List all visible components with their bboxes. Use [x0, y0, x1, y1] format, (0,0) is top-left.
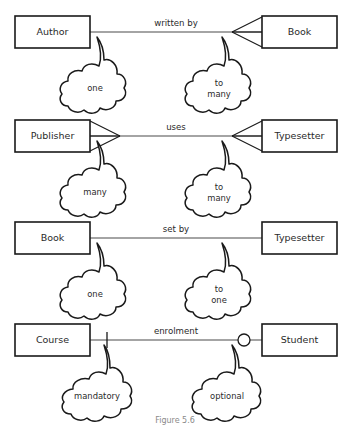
cloud-callout-to-many: to many [185, 37, 250, 113]
cloud-label-many: many [83, 187, 107, 197]
crow-foot-icon-right [232, 17, 262, 47]
cloud-label-one: one [211, 295, 227, 305]
relationship-row-course-student: Course Student enrolment mandatory optio… [15, 324, 337, 421]
entity-label-student: Student [281, 334, 319, 345]
relationship-label-written-by: written by [154, 18, 198, 28]
cloud-label-one: one [87, 289, 103, 299]
relationship-row-book-typesetter: Book Typesetter set by one to one [15, 222, 337, 319]
entity-label-author: Author [37, 26, 69, 37]
entity-label-book: Book [288, 26, 312, 37]
optional-circle-icon [238, 334, 250, 346]
entity-label-typesetter: Typesetter [274, 232, 325, 243]
relationship-label-set-by: set by [163, 224, 189, 234]
entity-label-publisher: Publisher [31, 130, 75, 141]
cloud-label-one: one [87, 83, 103, 93]
cloud-label-to: to [215, 182, 223, 192]
cloud-callout-optional: optional [192, 345, 260, 421]
cloud-label-optional: optional [210, 391, 244, 401]
figure-caption: Figure 5.6 [155, 416, 195, 425]
entity-label-book: Book [41, 232, 65, 243]
entity-label-typesetter: Typesetter [274, 130, 325, 141]
cloud-label-many: many [207, 89, 231, 99]
relationship-label-uses: uses [166, 122, 186, 132]
er-notation-diagram: Author Book written by one to many [0, 0, 350, 427]
relationship-label-enrolment: enrolment [154, 326, 199, 336]
cloud-label-mandatory: mandatory [74, 391, 120, 401]
cloud-callout-to-one: to one [185, 243, 250, 319]
cloud-label-many: many [207, 193, 231, 203]
relationship-row-publisher-typesetter: Publisher Typesetter uses many to many [15, 120, 337, 217]
crow-foot-icon-left [90, 121, 120, 151]
cloud-callout-to-many: to many [185, 141, 250, 217]
cloud-label-to: to [215, 78, 223, 88]
entity-label-course: Course [36, 334, 69, 345]
crow-foot-icon-right [232, 121, 262, 151]
cloud-label-to: to [215, 284, 223, 294]
relationship-row-author-book: Author Book written by one to many [15, 16, 337, 113]
